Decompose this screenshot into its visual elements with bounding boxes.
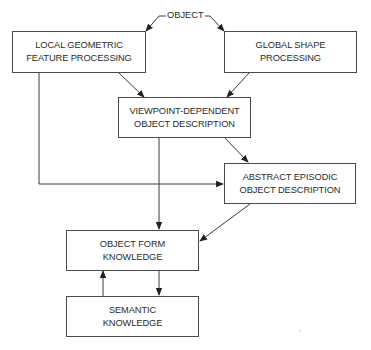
node-label-line: OBJECT DESCRIPTION (134, 118, 235, 131)
edge-abstract-to-form (200, 204, 250, 241)
node-label-line: PROCESSING (260, 52, 321, 65)
node-object-form-knowledge: OBJECT FORM KNOWLEDGE (66, 230, 199, 271)
node-label-line: ABSTRACT EPISODIC (243, 171, 338, 184)
node-label-line: VIEWPOINT-DEPENDENT (129, 105, 239, 118)
node-semantic-knowledge: SEMANTIC KNOWLEDGE (66, 296, 199, 337)
node-label-line: OBJECT DESCRIPTION (240, 184, 341, 197)
edge-viewpoint-to-abstract (224, 137, 248, 162)
node-label-line: KNOWLEDGE (103, 251, 163, 264)
node-label-line: GLOBAL SHAPE (256, 39, 326, 52)
node-label-line: KNOWLEDGE (103, 317, 163, 330)
node-label-line: FEATURE PROCESSING (26, 52, 131, 65)
edge-object-to-global (203, 16, 224, 31)
edge-local-to-viewpoint (119, 73, 144, 97)
node-viewpoint-dependent-object-description: VIEWPOINT-DEPENDENT OBJECT DESCRIPTION (118, 97, 251, 138)
diagram-canvas: OBJECT LOCAL GEOMETRIC FEATURE PROCESSIN… (0, 0, 371, 350)
edge-global-to-viewpoint (227, 73, 249, 97)
input-label-object: OBJECT (166, 10, 205, 21)
edge-object-to-local (146, 16, 167, 31)
scan-speck (299, 330, 301, 332)
node-abstract-episodic-object-description: ABSTRACT EPISODIC OBJECT DESCRIPTION (224, 163, 356, 204)
node-label-line: LOCAL GEOMETRIC (35, 39, 123, 52)
node-label-line: OBJECT FORM (100, 238, 165, 251)
node-label-line: SEMANTIC (109, 304, 156, 317)
node-global-shape-processing: GLOBAL SHAPE PROCESSING (224, 31, 357, 73)
node-local-geometric-feature-processing: LOCAL GEOMETRIC FEATURE PROCESSING (12, 31, 146, 73)
